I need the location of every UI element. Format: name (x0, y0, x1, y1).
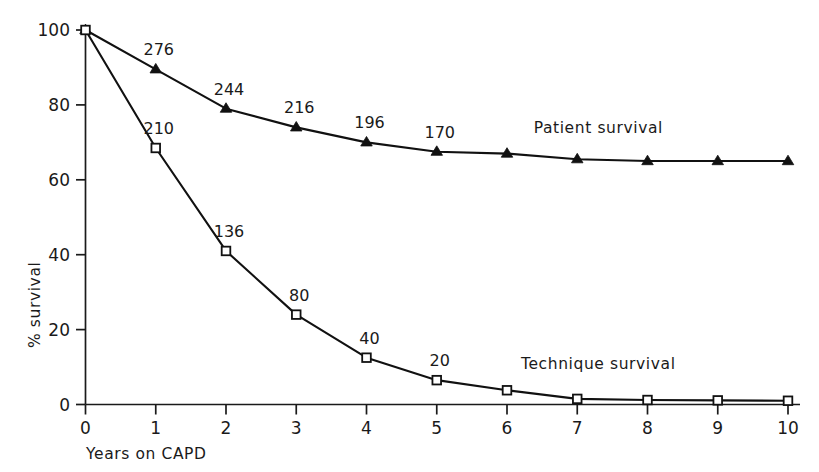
survival-chart-figure: 020406080100 012345678910 % survival Yea… (0, 0, 819, 472)
data-point-marker-square (784, 396, 793, 405)
y-axis-ticks (76, 30, 86, 405)
point-label: 210 (143, 119, 174, 138)
point-label: 196 (354, 113, 385, 132)
y-tick-label: 40 (48, 245, 70, 265)
data-point-marker-triangle (782, 155, 794, 165)
series-patient-survival: 276244216196170 (80, 24, 794, 165)
data-point-marker-square (362, 353, 371, 362)
data-point-marker-square (292, 310, 301, 319)
x-tick-label: 0 (80, 418, 91, 438)
data-point-marker-square (432, 376, 441, 385)
point-label: 244 (214, 80, 245, 99)
x-tick-label: 10 (777, 418, 799, 438)
point-label: 276 (143, 40, 174, 59)
data-point-marker-triangle (712, 155, 724, 165)
x-tick-label: 4 (361, 418, 372, 438)
x-tick-label: 2 (221, 418, 232, 438)
data-point-marker-square (81, 26, 90, 35)
x-tick-label: 8 (642, 418, 653, 438)
x-axis-tick-labels: 012345678910 (80, 418, 799, 438)
y-tick-label: 100 (38, 20, 70, 40)
data-point-marker-square (643, 396, 652, 405)
y-tick-label: 80 (48, 95, 70, 115)
y-tick-label: 60 (48, 170, 70, 190)
plot-area: 020406080100 012345678910 % survival Yea… (0, 0, 819, 472)
data-point-marker-square (503, 386, 512, 395)
data-point-marker-square (573, 395, 582, 404)
x-axis-ticks (86, 405, 789, 415)
x-axis-title: Years on CAPD (85, 445, 207, 463)
series-annotation-label: Technique survival (520, 355, 676, 373)
point-label: 40 (359, 329, 379, 348)
point-label: 80 (289, 286, 309, 305)
point-label: 170 (424, 123, 455, 142)
point-label: 136 (214, 222, 245, 241)
y-tick-label: 0 (59, 395, 70, 415)
x-tick-label: 6 (502, 418, 513, 438)
y-tick-label: 20 (48, 320, 70, 340)
point-label: 20 (430, 351, 450, 370)
x-tick-label: 9 (712, 418, 723, 438)
y-axis-title: % survival (26, 262, 44, 348)
series-annotation-label: Patient survival (534, 119, 663, 137)
x-tick-label: 7 (572, 418, 583, 438)
series-technique-survival: 210136804020 (81, 26, 792, 405)
data-point-marker-square (713, 396, 722, 405)
y-axis-tick-labels: 020406080100 (38, 20, 70, 415)
data-point-marker-square (151, 144, 160, 153)
point-label: 216 (284, 98, 315, 117)
data-point-marker-square (222, 247, 231, 256)
series-line (86, 30, 789, 401)
x-tick-label: 3 (291, 418, 302, 438)
series-group: 276244216196170210136804020 (80, 24, 794, 405)
x-tick-label: 5 (431, 418, 442, 438)
x-tick-label: 1 (150, 418, 161, 438)
axes (86, 28, 801, 405)
